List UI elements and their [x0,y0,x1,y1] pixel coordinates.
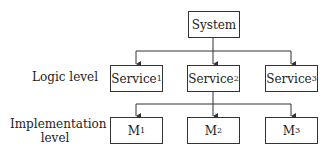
system-label: System [192,18,236,32]
logic-level-label: Logic level [30,70,98,84]
implementation-level-label: Implementationlevel [10,117,100,145]
impl-line2: level [41,131,70,145]
module-1-node: M1 [110,117,163,144]
module-2-label: M [205,124,217,138]
service-1-label: Service [111,72,157,86]
system-node: System [188,11,240,38]
module-2-sub: 2 [217,126,222,135]
service-2-sub: 2 [234,74,239,83]
service-3-sub: 3 [312,74,317,83]
service-1-sub: 1 [157,74,162,83]
module-3-node: M3 [265,117,318,144]
service-3-node: Service3 [265,65,318,92]
module-1-sub: 1 [140,126,145,135]
module-3-sub: 3 [295,126,300,135]
module-1-label: M [128,124,140,138]
impl-line1: Implementation [10,117,107,131]
module-3-label: M [283,124,295,138]
service-3-label: Service [266,72,312,86]
module-2-node: M2 [187,117,240,144]
service-2-node: Service2 [187,65,240,92]
service-2-label: Service [188,72,234,86]
service-1-node: Service1 [110,65,163,92]
